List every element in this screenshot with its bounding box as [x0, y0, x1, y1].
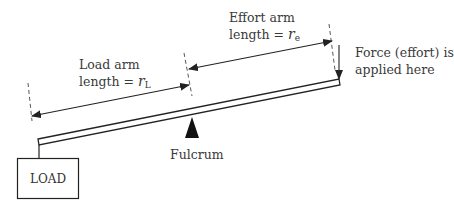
load-arm-variable: rL: [138, 73, 151, 89]
fulcrum-label: Fulcrum: [170, 146, 224, 163]
load-arm-label: Load arm length = rL: [79, 56, 151, 94]
effort-arm-variable: re: [288, 26, 300, 42]
force-label: Force (effort) is applied here: [355, 44, 454, 78]
load-box-label: LOAD: [17, 158, 79, 199]
load-arm-var-symbol: r: [138, 73, 145, 89]
effort-arm-var-subscript: e: [295, 33, 300, 43]
force-label-line1: Force (effort) is: [355, 44, 454, 61]
load-arm-label-line1: Load arm: [79, 56, 151, 73]
effort-arm-label-line1: Effort arm: [229, 9, 300, 26]
dashed-line-effort-end: [329, 24, 335, 70]
effort-arm-length-prefix: length =: [229, 27, 288, 42]
dashed-line-load-end: [28, 83, 32, 121]
load-arm-var-subscript: L: [145, 80, 151, 90]
effort-arm-var-symbol: r: [288, 26, 295, 42]
load-arm-label-line2: length = rL: [79, 73, 151, 94]
fulcrum-triangle-icon: [185, 117, 199, 138]
force-label-line2: applied here: [355, 61, 454, 78]
effort-arm-label-line2: length = re: [229, 26, 300, 47]
load-arm-length-prefix: length =: [79, 74, 138, 89]
dashed-line-fulcrum: [184, 53, 192, 96]
effort-arm-label: Effort arm length = re: [229, 9, 300, 47]
